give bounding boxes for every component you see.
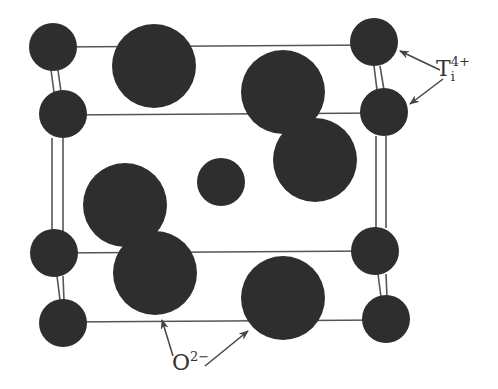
titanium-atom-ti-bottom-front-left bbox=[39, 299, 87, 347]
cell-edge-line bbox=[386, 274, 387, 297]
oxygen-atom-o-bottom-right bbox=[241, 256, 325, 340]
titanium-atom-ti-center bbox=[197, 158, 245, 206]
titanium-atom-ti-bottom-back-left bbox=[30, 229, 78, 277]
cell-edge-line bbox=[63, 276, 64, 300]
oxygen-atom-o-lower-left-b bbox=[113, 231, 197, 315]
cell-edge-line bbox=[58, 70, 61, 92]
oxygen-atom-o-upper-right-b bbox=[273, 118, 357, 202]
cell-edge-line bbox=[51, 70, 54, 92]
titanium-atoms bbox=[29, 18, 410, 347]
arrow-to-ti-top-front-right bbox=[410, 79, 443, 104]
cell-edge-line bbox=[57, 276, 60, 300]
titanium-atom-ti-bottom-back-right bbox=[351, 227, 399, 275]
arrow-to-ti-top-back-right bbox=[400, 51, 440, 70]
titanium-label-base: T bbox=[436, 56, 451, 81]
cell-edge-line bbox=[380, 66, 384, 90]
cell-edge-line bbox=[63, 320, 386, 322]
cell-edge-line bbox=[378, 274, 381, 297]
titanium-atom-ti-top-front-right bbox=[360, 88, 408, 136]
cell-edge-line bbox=[53, 45, 374, 47]
titanium-ion-label: T4+i bbox=[436, 58, 473, 80]
oxygen-ion-label: O2− bbox=[172, 350, 209, 374]
cell-edge-line bbox=[63, 113, 384, 115]
oxygen-label-charge: 2− bbox=[190, 349, 209, 364]
titanium-label-charge: 4+ bbox=[451, 55, 470, 68]
titanium-atom-ti-top-back-left bbox=[29, 23, 77, 71]
oxygen-label-base: O bbox=[172, 350, 190, 375]
arrow-to-o-bottom-right bbox=[205, 331, 248, 366]
titanium-atom-ti-top-front-left bbox=[39, 90, 87, 138]
oxygen-atom-o-top-left bbox=[112, 24, 196, 108]
cell-edge-line bbox=[374, 66, 377, 90]
titanium-atom-ti-top-back-right bbox=[350, 18, 398, 66]
titanium-label-subscript: i bbox=[451, 70, 455, 83]
cell-edge-line bbox=[54, 251, 375, 253]
titanium-atom-ti-bottom-front-right bbox=[362, 295, 410, 343]
rutile-unit-cell-diagram bbox=[0, 0, 498, 389]
